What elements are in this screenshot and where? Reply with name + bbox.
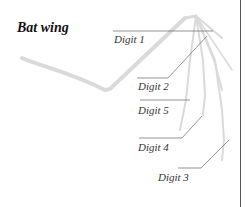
label-digit-1: Digit 1 — [114, 33, 145, 45]
label-digit-3: Digit 3 — [158, 171, 189, 183]
label-digit-5: Digit 5 — [138, 104, 169, 116]
frame-border — [240, 0, 241, 207]
bat-wing-diagram: Bat wing Digit 1 Digit 2 Digit 5 Digit 4… — [0, 0, 247, 207]
diagram-title: Bat wing — [17, 20, 69, 36]
label-digit-2: Digit 2 — [138, 80, 169, 92]
label-digit-4: Digit 4 — [138, 141, 169, 153]
